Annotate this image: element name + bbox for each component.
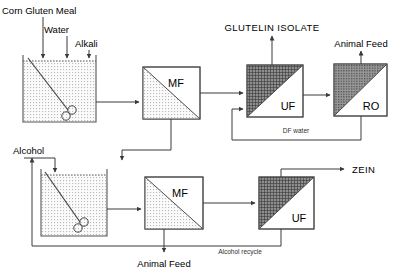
label-zein: ZEIN bbox=[352, 164, 375, 175]
extraction-tank bbox=[23, 55, 96, 122]
unit-mf-bottom[interactable]: MF bbox=[145, 177, 203, 229]
unit-uf-top-label: UF bbox=[281, 100, 296, 112]
extraction-tank-contents bbox=[23, 61, 96, 122]
alcohol-extraction-tank bbox=[41, 169, 107, 236]
unit-uf-top[interactable]: UF bbox=[247, 65, 303, 117]
label-corn-gluten-meal: Corn Gluten Meal bbox=[2, 5, 76, 16]
process-flow-diagram: Corn Gluten Meal Water Alkali MF UF GLUT… bbox=[0, 0, 396, 275]
unit-ro[interactable]: RO bbox=[334, 64, 387, 116]
unit-ro-label: RO bbox=[363, 100, 380, 112]
label-water: Water bbox=[44, 24, 69, 35]
label-animal-feed-top: Animal Feed bbox=[334, 38, 387, 49]
label-glutelin-isolate: GLUTELIN ISOLATE bbox=[225, 22, 320, 33]
unit-mf-bottom-label: MF bbox=[172, 187, 188, 199]
label-alcohol: Alcohol bbox=[13, 145, 44, 156]
label-animal-feed-bottom: Animal Feed bbox=[137, 258, 190, 269]
label-df-water: DF water bbox=[283, 127, 310, 134]
unit-mf-top-label: MF bbox=[168, 77, 184, 89]
unit-mf-top[interactable]: MF bbox=[143, 67, 200, 119]
label-alkali: Alkali bbox=[75, 38, 98, 49]
flowsheet-canvas: Corn Gluten Meal Water Alkali MF UF GLUT… bbox=[0, 0, 396, 275]
unit-uf-bottom-label: UF bbox=[292, 212, 307, 224]
unit-uf-bottom[interactable]: UF bbox=[259, 177, 314, 229]
label-alcohol-recycle: Alcohol recycle bbox=[218, 248, 262, 256]
